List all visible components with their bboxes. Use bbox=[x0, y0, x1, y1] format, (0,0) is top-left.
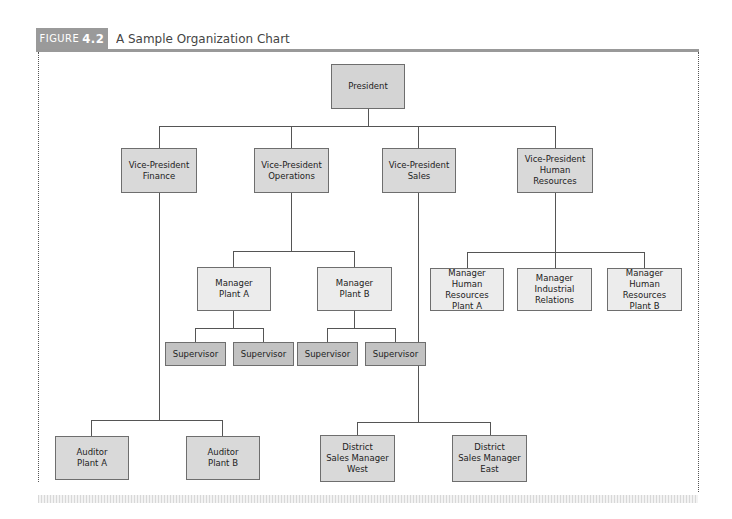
connector bbox=[354, 311, 355, 328]
connector bbox=[418, 193, 419, 422]
figure-title: A Sample Organization Chart bbox=[116, 28, 290, 49]
connector bbox=[195, 328, 264, 329]
node-auditor-plant-a: Auditor Plant A bbox=[55, 436, 129, 480]
node-supervisor: Supervisor bbox=[233, 342, 294, 366]
connector bbox=[555, 252, 556, 268]
node-supervisor: Supervisor bbox=[297, 342, 358, 366]
connector bbox=[222, 420, 223, 436]
figure-label: FIGURE 4.2 bbox=[36, 28, 108, 49]
node-manager-industrial-relations: Manager Industrial Relations bbox=[517, 268, 592, 311]
header-rule bbox=[36, 49, 699, 52]
figure-number: 4.2 bbox=[82, 31, 104, 46]
connector bbox=[644, 252, 645, 268]
node-vp-finance: Vice-President Finance bbox=[121, 148, 197, 193]
node-manager-plant-b: Manager Plant B bbox=[317, 267, 392, 311]
connector bbox=[233, 251, 234, 267]
node-vp-operations: Vice-President Operations bbox=[254, 148, 329, 193]
connector bbox=[368, 109, 369, 126]
frame-bottom-hatch bbox=[38, 495, 698, 503]
connector bbox=[395, 328, 396, 342]
node-vp-human-resources: Vice-President Human Resources bbox=[517, 148, 593, 193]
connector bbox=[263, 328, 264, 342]
connector bbox=[159, 193, 160, 420]
connector bbox=[354, 251, 355, 267]
connector bbox=[291, 193, 292, 251]
connector bbox=[357, 422, 358, 435]
connector bbox=[327, 328, 396, 329]
node-vp-sales: Vice-President Sales bbox=[382, 148, 456, 193]
figure-label-text: FIGURE bbox=[40, 32, 80, 45]
connector bbox=[467, 252, 645, 253]
node-district-sales-manager-west: District Sales Manager West bbox=[320, 435, 395, 482]
node-manager-plant-a: Manager Plant A bbox=[197, 267, 271, 311]
node-supervisor: Supervisor bbox=[165, 342, 226, 366]
node-auditor-plant-b: Auditor Plant B bbox=[186, 436, 260, 480]
connector bbox=[555, 193, 556, 252]
connector bbox=[418, 126, 419, 148]
node-supervisor: Supervisor bbox=[365, 342, 426, 366]
node-manager-hr-plant-b: Manager Human Resources Plant B bbox=[607, 268, 682, 311]
node-president: President bbox=[331, 64, 405, 109]
connector bbox=[357, 422, 491, 423]
connector bbox=[555, 126, 556, 148]
connector bbox=[159, 126, 160, 148]
node-district-sales-manager-east: District Sales Manager East bbox=[452, 435, 527, 482]
connector bbox=[327, 328, 328, 342]
connector bbox=[467, 252, 468, 268]
frame-right-border bbox=[698, 52, 699, 492]
node-manager-hr-plant-a: Manager Human Resources Plant A bbox=[430, 268, 504, 311]
connector bbox=[490, 422, 491, 435]
connector bbox=[91, 420, 223, 421]
connector bbox=[291, 126, 292, 148]
frame-left-border bbox=[38, 52, 39, 482]
connector bbox=[195, 328, 196, 342]
connector bbox=[233, 251, 355, 252]
connector bbox=[233, 311, 234, 328]
connector bbox=[159, 126, 555, 127]
connector bbox=[91, 420, 92, 436]
